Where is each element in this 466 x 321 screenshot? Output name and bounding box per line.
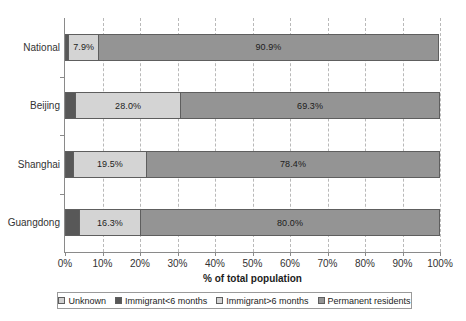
x-axis-tick-label: 100% [420,258,460,269]
x-axis-title: % of total population [65,273,440,284]
bar-segment-label: 78.4% [280,159,306,169]
x-axis-tick [65,252,66,256]
x-axis-tick-label: 70% [308,258,348,269]
x-axis-tick-label: 10% [83,258,123,269]
legend-label: Immigrant>6 months [226,296,308,306]
bar-segment: 28.0% [75,92,180,119]
y-axis-category-label: Guangdong [2,217,60,228]
gridline [440,18,441,252]
legend-item[interactable]: Immigrant<6 months [115,296,207,306]
x-axis-tick [103,252,104,256]
bar-segment-label: 7.9% [73,42,94,52]
bar-segment [65,92,75,119]
legend-label: Unknown [68,296,106,306]
y-axis-tick [60,77,65,78]
x-axis-tick [215,252,216,256]
bar-segment-label: 16.3% [97,218,123,228]
legend-swatch-icon [216,297,223,304]
x-axis-tick-label: 40% [195,258,235,269]
bar-segment-label: 28.0% [115,101,141,111]
chart-legend: UnknownImmigrant<6 monthsImmigrant>6 mon… [57,292,412,309]
x-axis-tick [440,252,441,256]
legend-item[interactable]: Immigrant>6 months [216,296,308,306]
x-axis-tick [365,252,366,256]
bar-group: 28.0%69.3% [65,92,440,119]
x-axis-tick-label: 80% [345,258,385,269]
x-axis-tick-label: 0% [45,258,85,269]
x-axis-tick [140,252,141,256]
x-axis-tick [328,252,329,256]
legend-label: Immigrant<6 months [125,296,207,306]
x-axis-tick [253,252,254,256]
stacked-bar-chart: 7.9%90.9%28.0%69.3%19.5%78.4%16.3%80.0% … [0,0,466,321]
x-axis-tick-label: 50% [233,258,273,269]
x-axis-tick [290,252,291,256]
bar-segment-label: 80.0% [277,218,303,228]
y-axis-category-label: Shanghai [2,159,60,170]
bar-segment: 7.9% [68,34,98,61]
x-axis-tick [403,252,404,256]
y-axis-category-label: Beijing [2,100,60,111]
bar-group: 7.9%90.9% [65,34,440,61]
y-axis-category-labels: NationalBeijingShanghaiGuangdong [0,18,60,252]
bar-segment: 90.9% [98,34,439,61]
x-axis-tick-label: 90% [383,258,423,269]
legend-label: Permanent residents [328,296,411,306]
legend-item[interactable]: Permanent residents [318,296,411,306]
bar-segment-label: 19.5% [97,159,123,169]
bar-segment: 69.3% [180,92,440,119]
y-axis-tick [60,135,65,136]
bar-segment-label: 69.3% [297,101,323,111]
bar-segment: 16.3% [79,209,140,236]
legend-item[interactable]: Unknown [58,296,106,306]
bar-segment-label: 90.9% [255,42,281,52]
bar-segment: 78.4% [146,151,440,178]
y-axis-tick [60,194,65,195]
bar-segment: 19.5% [73,151,146,178]
bar-segment [65,209,79,236]
plot-area: 7.9%90.9%28.0%69.3%19.5%78.4%16.3%80.0% [65,18,440,252]
x-axis-tick [178,252,179,256]
bar-segment [65,151,73,178]
legend-swatch-icon [318,297,325,304]
x-axis-tick-label: 30% [158,258,198,269]
bar-group: 19.5%78.4% [65,151,440,178]
bar-segment: 80.0% [140,209,440,236]
legend-swatch-icon [115,297,122,304]
y-axis-category-label: National [2,42,60,53]
x-axis-tick-label: 20% [120,258,160,269]
bar-group: 16.3%80.0% [65,209,440,236]
legend-swatch-icon [58,297,65,304]
x-axis-tick-label: 60% [270,258,310,269]
